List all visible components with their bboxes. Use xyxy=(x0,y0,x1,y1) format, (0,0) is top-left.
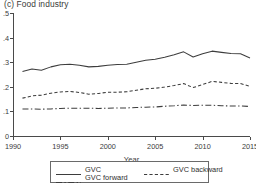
y-tick-label: .5 xyxy=(3,9,9,18)
legend-label: GVC forward xyxy=(85,173,128,182)
x-tick xyxy=(60,137,61,140)
dashed-line-icon xyxy=(144,165,169,174)
series-lines xyxy=(13,13,250,137)
x-tick xyxy=(250,137,251,140)
x-tick xyxy=(108,137,109,140)
y-tick-label: .2 xyxy=(3,82,9,91)
y-tick-label: .1 xyxy=(3,107,9,116)
x-tick-label: 2010 xyxy=(194,142,210,151)
x-tick xyxy=(13,137,14,140)
x-tick xyxy=(155,137,156,140)
x-tick-label: 1995 xyxy=(52,142,68,151)
y-tick-label: 0 xyxy=(5,132,9,141)
series-line-gvc-forward xyxy=(22,105,250,109)
plot-area: 0.1.2.3.4.5 199019952000200520102015 xyxy=(13,13,250,137)
x-tick xyxy=(203,137,204,140)
x-tick-label: 2015 xyxy=(242,142,256,151)
legend-label: GVC backward xyxy=(173,165,223,174)
page-title: (c) Food industry xyxy=(4,0,69,9)
y-tick-label: .4 xyxy=(3,33,9,42)
x-tick-label: 2000 xyxy=(100,142,116,151)
series-line-gvc-backward xyxy=(22,81,250,98)
legend-item-gvc-forward[interactable]: GVC forward xyxy=(56,173,128,182)
chart-figure: (c) Food industry 0.1.2.3.4.5 1990199520… xyxy=(0,0,256,183)
y-tick-label: .3 xyxy=(3,58,9,67)
x-tick-label: 1990 xyxy=(5,142,21,151)
series-line-gvc xyxy=(22,51,250,71)
legend: GVC GVC backward GVC forward xyxy=(50,161,209,183)
dash-dot-line-icon xyxy=(56,173,81,182)
x-tick-label: 2005 xyxy=(147,142,163,151)
legend-item-gvc-backward[interactable]: GVC backward xyxy=(144,165,223,174)
